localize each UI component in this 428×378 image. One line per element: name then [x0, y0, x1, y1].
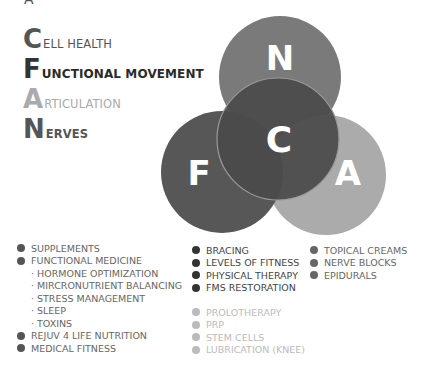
- item-label: NERVE BLOCKS: [324, 257, 397, 268]
- item-label: PRP: [206, 319, 224, 330]
- bullet-dot-icon: [17, 332, 25, 340]
- item-label: FMS RESTORATION: [206, 282, 296, 293]
- item-label: SUPPLEMENTS: [31, 243, 100, 254]
- item-label: SLEEP: [37, 305, 66, 316]
- list-item: NERVE BLOCKS: [310, 257, 407, 270]
- bullet-dot-icon: [192, 321, 200, 329]
- list-item: MEDICAL FITNESS: [17, 342, 182, 355]
- list-item: BRACING: [192, 244, 299, 257]
- list-item: TOPICAL CREAMS: [310, 244, 407, 257]
- item-label: FUNCTIONAL MEDICINE: [31, 255, 142, 266]
- bullet-dot-icon: [310, 246, 318, 254]
- bullet-dot-icon: [17, 344, 25, 352]
- bullet-dot-icon: [192, 284, 200, 292]
- item-label: LUBRICATION (KNEE): [206, 344, 305, 355]
- item-label: PHYSICAL THERAPY: [206, 270, 298, 281]
- item-label: MEDICAL FITNESS: [31, 343, 116, 354]
- item-label: STRESS MANAGEMENT: [37, 293, 145, 304]
- bullet-dot-icon: [310, 259, 318, 267]
- letter-n: N: [266, 38, 294, 78]
- bullet-dot-icon: [192, 259, 200, 267]
- item-label: PROLOTHERAPY: [206, 307, 281, 318]
- item-label: EPIDURALS: [324, 270, 377, 281]
- bullet-dot-icon: [192, 346, 200, 354]
- item-label: TOPICAL CREAMS: [324, 245, 407, 256]
- item-label: HORMONE OPTIMIZATION: [37, 268, 158, 279]
- list-item: EPIDURALS: [310, 269, 407, 282]
- list-item: PRP: [192, 319, 305, 332]
- list-cell-health: SUPPLEMENTS FUNCTIONAL MEDICINE ·HORMONE…: [17, 242, 182, 355]
- list-item: FUNCTIONAL MEDICINE: [17, 255, 182, 268]
- list-nerves: TOPICAL CREAMS NERVE BLOCKS EPIDURALS: [310, 244, 407, 282]
- list-item: STEM CELLS: [192, 331, 305, 344]
- list-item: LUBRICATION (KNEE): [192, 344, 305, 357]
- list-item: REJUV 4 LIFE NUTRITION: [17, 330, 182, 343]
- item-label: REJUV 4 LIFE NUTRITION: [31, 330, 147, 341]
- list-item: PHYSICAL THERAPY: [192, 269, 299, 282]
- sub-list-item: ·TOXINS: [17, 317, 182, 330]
- letter-a: A: [335, 153, 362, 193]
- bullet-dot-icon: [192, 333, 200, 341]
- letter-f: F: [187, 153, 210, 193]
- bullet-dot-icon: [192, 246, 200, 254]
- bullet-dot-icon: [192, 308, 200, 316]
- list-articulation: PROLOTHERAPY PRP STEM CELLS LUBRICATION …: [192, 306, 305, 356]
- list-item: LEVELS OF FITNESS: [192, 257, 299, 270]
- sub-list-item: ·SLEEP: [17, 305, 182, 318]
- list-item: PROLOTHERAPY: [192, 306, 305, 319]
- sub-list-item: ·STRESS MANAGEMENT: [17, 292, 182, 305]
- bullet-dot-icon: [192, 271, 200, 279]
- bullet-dot-icon: [17, 244, 25, 252]
- list-functional-movement: BRACING LEVELS OF FITNESS PHYSICAL THERA…: [192, 244, 299, 294]
- sub-list-item: ·MIRCRONUTRIENT BALANCING: [17, 280, 182, 293]
- item-label: MIRCRONUTRIENT BALANCING: [37, 280, 182, 291]
- list-item: FMS RESTORATION: [192, 282, 299, 295]
- letter-c: C: [266, 119, 292, 160]
- bullet-dot-icon: [310, 271, 318, 279]
- list-item: SUPPLEMENTS: [17, 242, 182, 255]
- sub-list-item: ·HORMONE OPTIMIZATION: [17, 267, 182, 280]
- bullet-dot-icon: [17, 257, 25, 265]
- item-label: LEVELS OF FITNESS: [206, 257, 299, 268]
- item-label: TOXINS: [37, 318, 72, 329]
- item-label: BRACING: [206, 245, 249, 256]
- item-label: STEM CELLS: [206, 332, 264, 343]
